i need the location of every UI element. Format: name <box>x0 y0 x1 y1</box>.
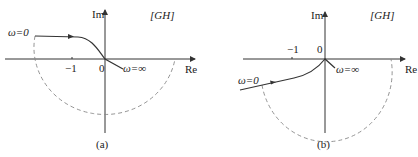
plane-label: [GH] <box>370 9 394 21</box>
origin-label: 0 <box>317 43 323 55</box>
nyquist-figure: Im [GH] Re −1 0 ω=0 ω=∞ (a) Im [GH] Re −… <box>0 0 418 157</box>
omega-infinity-label: ω=∞ <box>336 63 359 75</box>
caption-a: (a) <box>96 138 109 151</box>
nyquist-curve <box>35 36 123 69</box>
tick-label-minus-one: −1 <box>287 43 299 55</box>
omega-infinity-label: ω=∞ <box>123 62 146 74</box>
direction-arrow-icon <box>68 34 74 39</box>
panel-b: Im [GH] Re −1 0 ω=0 ω=∞ (b) <box>238 9 417 151</box>
tick-label-minus-one: −1 <box>65 62 77 74</box>
caption-b: (b) <box>317 138 330 151</box>
infinite-semicircle <box>262 59 392 142</box>
omega-zero-label: ω=0 <box>238 74 259 86</box>
im-label: Im <box>311 9 324 21</box>
re-label: Re <box>185 63 197 75</box>
infinite-semicircle <box>34 36 175 114</box>
plane-label: [GH] <box>150 9 174 21</box>
origin-label: 0 <box>99 62 105 74</box>
omega-zero-label: ω=0 <box>8 26 29 38</box>
re-label: Re <box>405 63 417 75</box>
panel-a: Im [GH] Re −1 0 ω=0 ω=∞ (a) <box>5 8 197 151</box>
im-label: Im <box>92 8 105 20</box>
